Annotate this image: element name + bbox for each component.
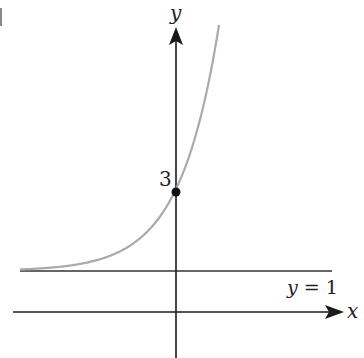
asymptote-label: y = 1	[286, 276, 338, 298]
graph: y x 3 y = 1	[0, 0, 364, 358]
y-intercept-point	[172, 188, 181, 197]
edge-mark	[0, 8, 2, 26]
y-axis-label: y	[169, 1, 182, 25]
exponential-curve	[20, 25, 219, 269]
point-label: 3	[159, 167, 172, 191]
x-axis-label: x	[347, 299, 358, 323]
